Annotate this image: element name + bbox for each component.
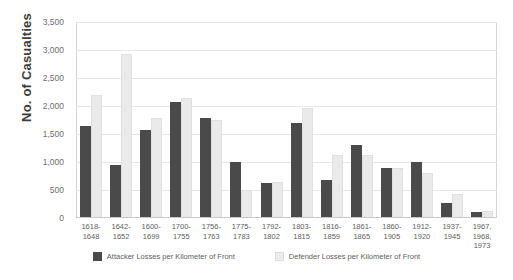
x-tick-label: 1912- 1920 [407, 222, 437, 251]
x-tick-label: 1937- 1945 [437, 222, 467, 251]
bar-attacker[interactable] [321, 180, 332, 218]
bar-group [467, 22, 497, 218]
bar-attacker[interactable] [381, 168, 392, 218]
bar-group [76, 22, 106, 218]
bar-group [136, 22, 166, 218]
plot-area [76, 22, 497, 218]
y-tick-label: 2,500 [43, 73, 64, 83]
bar-group [317, 22, 347, 218]
x-tick-label: 1775- 1783 [226, 222, 256, 251]
legend-swatch-defender-icon [275, 252, 284, 261]
bar-defender[interactable] [211, 120, 222, 218]
x-tick-label: 1618- 1648 [76, 222, 106, 251]
bar-attacker[interactable] [411, 162, 422, 218]
bar-attacker[interactable] [200, 118, 211, 218]
legend-label-defender: Defender Losses per Kilometer of Front [289, 252, 420, 261]
bar-group [287, 22, 317, 218]
bar-defender[interactable] [181, 98, 192, 218]
bar-defender[interactable] [392, 168, 403, 218]
x-tick-label: 1861- 1865 [347, 222, 377, 251]
legend-item-defender: Defender Losses per Kilometer of Front [275, 252, 420, 261]
bar-group [196, 22, 226, 218]
bar-group [407, 22, 437, 218]
x-tick-label: 1816- 1859 [317, 222, 347, 251]
x-tick-label: 1642- 1652 [106, 222, 136, 251]
chart-legend: Attacker Losses per Kilometer of Front D… [0, 252, 513, 261]
bar-defender[interactable] [91, 95, 102, 218]
y-tick-label: 0 [59, 213, 64, 223]
bar-attacker[interactable] [261, 183, 272, 218]
bar-group [377, 22, 407, 218]
bar-attacker[interactable] [441, 203, 452, 218]
y-axis-tick-labels: 3,5003,0002,5002,0001,5001,0005000 [0, 22, 70, 218]
x-tick-label: 1756- 1763 [196, 222, 226, 251]
bar-defender[interactable] [241, 190, 252, 218]
y-tick-label: 1,000 [43, 157, 64, 167]
bar-defender[interactable] [422, 173, 433, 218]
bar-defender[interactable] [362, 155, 373, 218]
bar-group [437, 22, 467, 218]
y-tick-label: 2,000 [43, 101, 64, 111]
legend-label-attacker: Attacker Losses per Kilometer of Front [107, 252, 235, 261]
bar-group [166, 22, 196, 218]
x-tick-label: 1700- 1755 [166, 222, 196, 251]
bar-attacker[interactable] [110, 165, 121, 218]
x-axis-tick-labels: 1618- 16481642- 16521600- 16991700- 1755… [76, 222, 497, 251]
bar-defender[interactable] [151, 118, 162, 218]
bar-group [256, 22, 286, 218]
x-tick-label: 1860- 1905 [377, 222, 407, 251]
bar-attacker[interactable] [170, 102, 181, 218]
bar-attacker[interactable] [291, 123, 302, 218]
y-tick-label: 3,000 [43, 45, 64, 55]
bar-defender[interactable] [272, 182, 283, 218]
y-tick-label: 1,500 [43, 129, 64, 139]
y-tick-label: 500 [50, 185, 64, 195]
bar-group [347, 22, 377, 218]
y-tick-label: 3,500 [43, 17, 64, 27]
bar-defender[interactable] [452, 194, 463, 218]
bar-attacker[interactable] [351, 145, 362, 218]
bar-defender[interactable] [121, 54, 132, 218]
bar-attacker[interactable] [230, 162, 241, 218]
legend-item-attacker: Attacker Losses per Kilometer of Front [93, 252, 235, 261]
bar-chart: No. of Casualties 3,5003,0002,5002,0001,… [0, 0, 513, 280]
bar-defender[interactable] [302, 108, 313, 218]
bar-group [226, 22, 256, 218]
x-tick-label: 1792- 1802 [256, 222, 286, 251]
x-tick-label: 1967, 1968, 1973 [467, 222, 497, 251]
bar-attacker[interactable] [80, 126, 91, 218]
bar-groups [76, 22, 497, 218]
legend-swatch-attacker-icon [93, 252, 102, 261]
bar-attacker[interactable] [140, 130, 151, 218]
bar-group [106, 22, 136, 218]
x-axis-baseline [76, 217, 497, 218]
bar-defender[interactable] [332, 155, 343, 218]
x-tick-label: 1600- 1699 [136, 222, 166, 251]
x-tick-label: 1803- 1815 [287, 222, 317, 251]
